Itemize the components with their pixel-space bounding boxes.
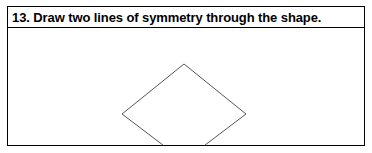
answer-area[interactable] — [8, 28, 364, 145]
question-header: 13. Draw two lines of symmetry through t… — [8, 7, 364, 28]
shape-canvas[interactable] — [8, 28, 364, 145]
rhombus-shape — [122, 64, 246, 145]
worksheet-page: 13. Draw two lines of symmetry through t… — [0, 0, 372, 153]
question-box: 13. Draw two lines of symmetry through t… — [7, 6, 365, 146]
question-prompt-text: 13. Draw two lines of symmetry through t… — [12, 10, 321, 25]
